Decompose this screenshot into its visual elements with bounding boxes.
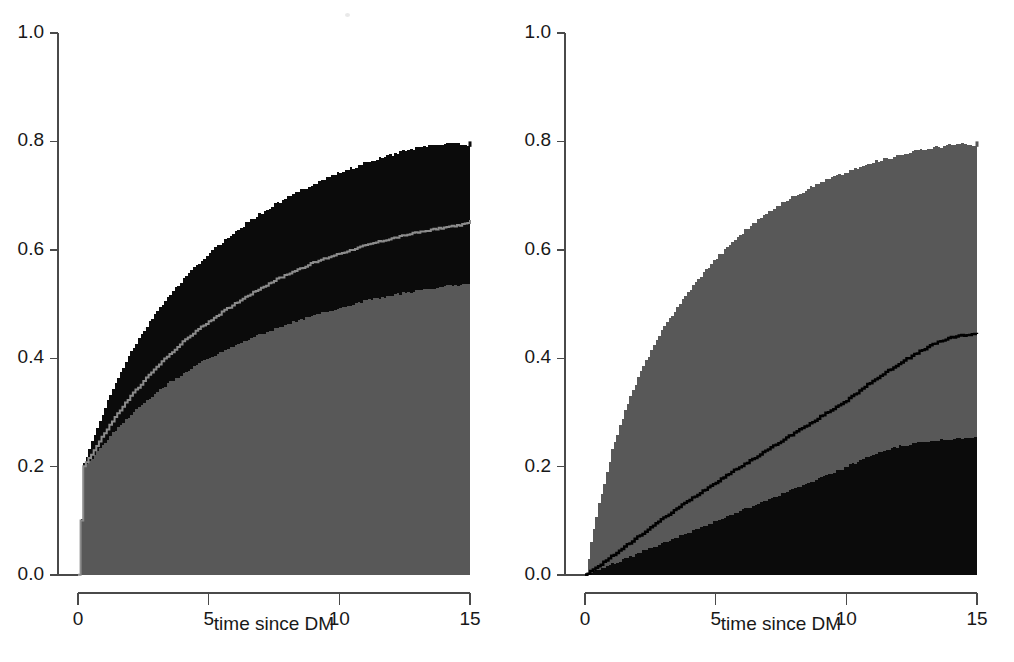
y-tick-label: 0.8 — [525, 129, 551, 150]
y-tick-label: 0.8 — [18, 129, 44, 150]
y-tick-label: 1.0 — [525, 21, 551, 42]
x-tick-label: 0 — [580, 608, 591, 629]
right-panel-areas — [585, 142, 977, 576]
x-tick-label: 15 — [966, 608, 987, 629]
axis-spine-y — [565, 33, 585, 575]
y-tick-label: 0.6 — [18, 238, 44, 259]
right-panel: 0.00.20.40.60.81.0051015 time since DM — [507, 0, 1014, 662]
left-panel-x-axis-title: time since DM — [214, 613, 334, 634]
x-tick-label: 0 — [73, 608, 84, 629]
figure-canvas: 0.00.20.40.60.81.0051015 time since DM 0… — [0, 0, 1014, 662]
right-panel-x-axis-title: time since DM — [721, 613, 841, 634]
y-tick-label: 0.6 — [525, 238, 551, 259]
y-tick-label: 0.4 — [18, 346, 45, 367]
y-tick-label: 0.0 — [18, 563, 44, 584]
y-tick-label: 0.2 — [18, 455, 44, 476]
y-tick-label: 0.2 — [525, 455, 551, 476]
left-panel: 0.00.20.40.60.81.0051015 time since DM — [0, 0, 507, 662]
x-tick-label: 5 — [710, 608, 721, 629]
y-tick-label: 1.0 — [18, 21, 44, 42]
left-panel-plot: 0.00.20.40.60.81.0051015 time since DM — [0, 0, 507, 662]
y-tick-label: 0.0 — [525, 563, 551, 584]
right-panel-plot: 0.00.20.40.60.81.0051015 time since DM — [507, 0, 1014, 662]
x-tick-label: 5 — [203, 608, 214, 629]
left-panel-areas — [78, 142, 470, 575]
axis-spine-y — [58, 33, 78, 575]
y-tick-label: 0.4 — [525, 346, 552, 367]
x-tick-label: 15 — [459, 608, 480, 629]
